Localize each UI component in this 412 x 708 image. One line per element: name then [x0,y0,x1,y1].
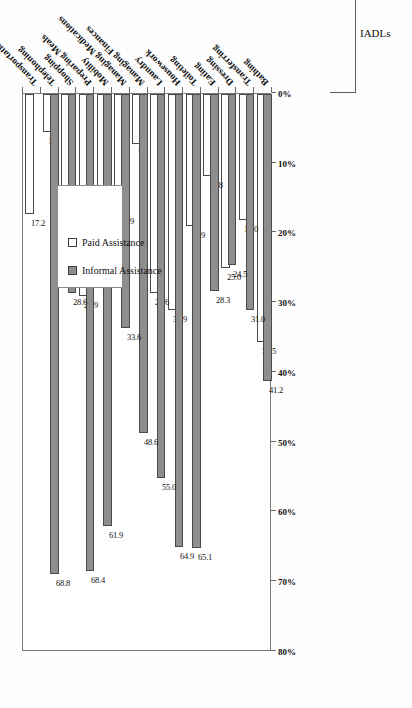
axis-tick-label: 70% [278,577,296,587]
bar-informal-dressing [228,94,237,265]
value-label: 17.2 [31,218,45,228]
legend-label: Informal Assistance [82,265,162,276]
axis-tick [271,441,276,442]
group-bracket-iadls [330,0,356,93]
value-label: 68.8 [56,578,70,588]
category-tick [218,87,219,93]
value-label: 48.6 [144,437,158,447]
value-label: 28.3 [216,295,230,305]
legend-swatch-informal-icon [68,266,77,275]
bar-informal-mobility [103,94,112,526]
value-label: 28.6 [73,298,87,308]
value-label: 33.6 [127,332,141,342]
category-tick [200,87,201,93]
category-tick [164,87,165,93]
category-tick [58,87,59,93]
value-label: 68.4 [91,575,105,585]
value-label: 61.9 [109,530,123,540]
category-tick [111,87,112,93]
axis-tick [271,301,276,302]
bar-informal-telephoning [50,94,59,574]
axis-tick [271,232,276,233]
legend-item-paid: Paid Assistance [68,237,145,248]
bar-informal-eating [210,94,219,291]
value-label: 55.0 [162,482,176,492]
category-tick [271,87,272,93]
bar-informal-laundry [157,94,166,478]
value-label: 31.0 [251,314,265,324]
category-tick [147,87,148,93]
category-tick [129,87,130,93]
bar-informal-toileting [192,94,201,548]
axis-tick-label: 80% [278,647,296,657]
bar-informal-housework [175,94,184,547]
axis-tick [271,650,276,651]
value-label: 65.1 [198,552,212,562]
category-axis: BathingTransferringDressingEatingToileti… [22,0,282,93]
legend-label: Paid Assistance [82,237,145,248]
chart-page: 35.541.218.031.025.024.511.828.318.965.1… [0,0,412,708]
bar-informal-managing-finances [139,94,148,433]
axis-tick-label: 60% [278,508,296,518]
bar-informal-preparing-meals [86,94,95,571]
chart-legend: Informal AssistancePaid Assistance [57,185,123,288]
bar-paid-transportation [25,94,34,214]
legend-item-informal: Informal Assistance [68,265,162,276]
group-brackets: n = 285 ADLsIADLs [330,51,410,651]
category-tick [253,87,254,93]
group-label-iadls: IADLs [360,27,391,39]
axis-tick-label: 50% [278,438,296,448]
value-label: 24.5 [233,269,247,279]
axis-tick [271,371,276,372]
category-tick [75,87,76,93]
axis-tick [271,580,276,581]
category-tick [182,87,183,93]
axis-tick [271,162,276,163]
axis-tick-label: 30% [278,298,296,308]
axis-tick-label: 10% [278,159,296,169]
category-tick [22,87,23,93]
plot-area: 35.541.218.031.025.024.511.828.318.965.1… [22,93,271,651]
axis-tick [271,511,276,512]
legend-swatch-paid-icon [68,238,77,247]
value-label: 64.9 [180,551,194,561]
axis-tick-label: 20% [278,229,296,239]
category-tick [93,87,94,93]
category-tick [40,87,41,93]
axis-tick-label: 40% [278,368,296,378]
category-tick [235,87,236,93]
rotated-figure: 35.541.218.031.025.024.511.828.318.965.1… [0,0,412,708]
value-axis: 80%70%60%50%40%30%20%10%0% [271,93,311,651]
